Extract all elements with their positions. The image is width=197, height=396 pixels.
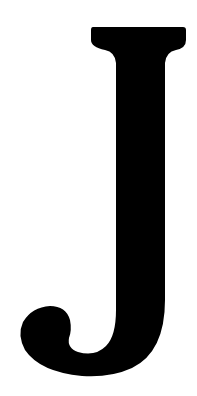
letter-j-icon <box>0 0 197 396</box>
letter-j-graphic: J <box>0 0 197 396</box>
